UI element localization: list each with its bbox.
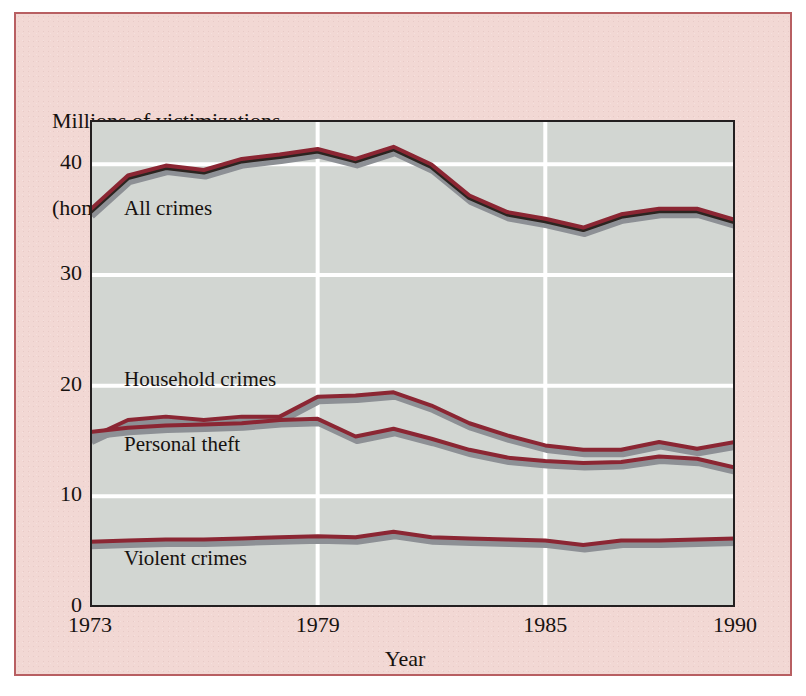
y-axis-tick-label: 30 xyxy=(36,260,82,286)
chart-canvas xyxy=(90,120,735,607)
series-label-personal-theft: Personal theft xyxy=(124,432,240,457)
x-axis-tick-label: 1985 xyxy=(500,612,590,638)
series-label-violent-crimes: Violent crimes xyxy=(124,546,247,571)
chart-plot-area: All crimesHousehold crimesPersonal theft… xyxy=(90,120,735,607)
y-axis-tick-label: 10 xyxy=(36,481,82,507)
x-axis-tick-label: 1973 xyxy=(45,612,135,638)
series-label-household-crimes: Household crimes xyxy=(124,367,276,392)
y-axis-tick-label: 40 xyxy=(36,149,82,175)
y-axis-tick-label: 20 xyxy=(36,371,82,397)
chart-axis-title-x: Year xyxy=(16,646,794,672)
x-axis-tick-label: 1979 xyxy=(273,612,363,638)
x-axis-tick-label: 1990 xyxy=(690,612,780,638)
chart-figure: Millions of victimizations (homicides ex… xyxy=(14,12,792,676)
series-label-all-crimes: All crimes xyxy=(124,196,212,221)
